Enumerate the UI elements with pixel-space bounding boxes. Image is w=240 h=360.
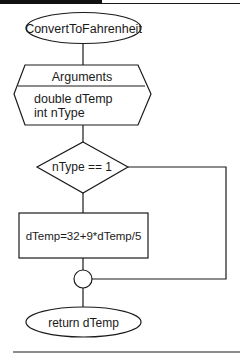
junction-node <box>74 270 92 288</box>
end-node: return dTemp <box>26 307 141 337</box>
end-label: return dTemp <box>48 316 119 330</box>
arguments-node: Arguments double dTemp int nType <box>14 65 151 125</box>
decision-label: nType == 1 <box>52 160 112 174</box>
top-rule <box>0 0 240 4</box>
process-node: dTemp=32+9*dTemp/5 <box>19 213 148 258</box>
arguments-header: Arguments <box>52 70 112 84</box>
argument-line: int nType <box>34 106 85 120</box>
process-label: dTemp=32+9*dTemp/5 <box>26 230 142 242</box>
decision-node: nType == 1 <box>37 142 128 193</box>
argument-line: double dTemp <box>34 92 113 106</box>
flowchart-canvas: ConvertToFahrenheit Arguments double dTe… <box>0 0 240 360</box>
start-label: ConvertToFahrenheit <box>25 22 142 36</box>
start-node: ConvertToFahrenheit <box>25 13 142 44</box>
